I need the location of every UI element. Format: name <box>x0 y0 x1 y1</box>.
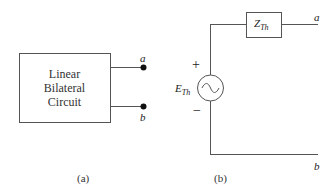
box-line-2: Bilateral <box>44 81 85 95</box>
impedance-label: ZTh <box>254 18 269 32</box>
terminal-dot-a <box>141 65 147 71</box>
terminal-label-b-left: b <box>140 112 146 123</box>
terminal-label-b-right: b <box>314 161 320 172</box>
caption-b: (b) <box>214 173 227 184</box>
box-line-3: Circuit <box>48 95 81 109</box>
minus-sign: − <box>193 104 201 118</box>
circuit-box-label: Linear Bilateral Circuit <box>19 53 110 122</box>
box-line-1: Linear <box>49 67 80 81</box>
plus-sign: + <box>192 58 200 72</box>
terminal-label-a-left: a <box>140 53 146 64</box>
terminal-dot-b <box>141 104 147 110</box>
source-label: ETh <box>175 83 190 97</box>
caption-a: (a) <box>77 173 89 184</box>
sine-wave-icon <box>202 84 219 93</box>
terminal-label-a-right: a <box>314 12 320 23</box>
